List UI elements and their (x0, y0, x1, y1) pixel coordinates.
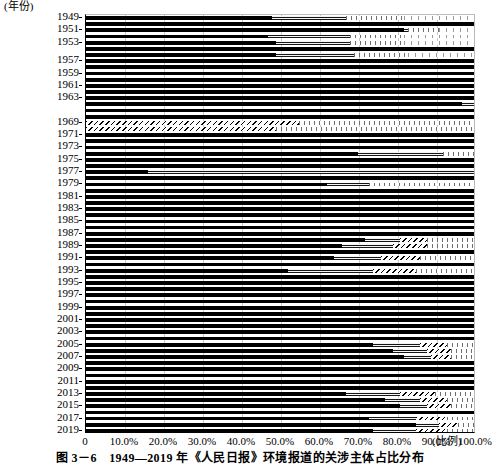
bar-segment-5 (404, 41, 474, 45)
bar-segment-2 (462, 102, 474, 106)
y-tick-label-1961: 1961 (57, 79, 79, 90)
bar-segment-2 (373, 429, 416, 433)
bar-segment-2 (276, 53, 354, 57)
bar-segment-1 (86, 164, 474, 168)
y-axis-labels: 1949195119531957195919611963196919711973… (0, 14, 82, 433)
bar-segment-2 (334, 256, 381, 260)
bar-segment-2 (404, 355, 431, 359)
y-tick-label-2007: 2007 (57, 350, 79, 361)
x-tick-label-60: 60.0% (305, 435, 333, 448)
y-tick-label-2017: 2017 (57, 412, 79, 423)
bar-segment-1 (86, 226, 474, 230)
bar-segment-1 (86, 312, 474, 316)
bar-segment-1 (86, 281, 474, 285)
bar-segment-1 (86, 220, 474, 224)
bar-segment-4 (427, 238, 474, 242)
y-tick-mark-1999 (79, 307, 82, 308)
bar-row (86, 330, 474, 334)
bar-segment-1 (86, 367, 474, 371)
bar-segment-1 (86, 404, 400, 408)
y-tick-label-1981: 1981 (57, 190, 79, 201)
bar-segment-1 (86, 22, 474, 26)
bar-segment-1 (86, 263, 474, 267)
bar-segment-1 (86, 287, 474, 291)
bar-segment-1 (86, 244, 342, 248)
bar-row (86, 35, 474, 39)
bar-segment-2 (327, 183, 370, 187)
bar-row (86, 374, 474, 378)
bar-row (86, 16, 474, 20)
y-tick-mark-2001 (79, 319, 82, 320)
y-tick-label-1971: 1971 (57, 128, 79, 139)
bar-row (86, 220, 474, 224)
bar-row (86, 53, 474, 57)
bar-segment-1 (86, 423, 416, 427)
y-tick-label-1969: 1969 (57, 116, 79, 127)
y-tick-mark-1983 (79, 208, 82, 209)
y-tick-label-1973: 1973 (57, 140, 79, 151)
y-tick-mark-1977 (79, 171, 82, 172)
x-tick-label-0: 0 (82, 435, 88, 448)
bar-row (86, 41, 474, 45)
y-tick-mark-1981 (79, 196, 82, 197)
bar-row (86, 139, 474, 143)
bar-segment-5 (439, 28, 474, 32)
y-tick-label-2009: 2009 (57, 362, 79, 373)
y-tick-label-2001: 2001 (57, 313, 79, 324)
y-tick-mark-1949 (79, 17, 82, 18)
x-tick-label-80: 80.0% (383, 435, 411, 448)
bar-segment-1 (86, 256, 334, 260)
bar-row (86, 133, 474, 137)
bar-segment-1 (86, 41, 276, 45)
bar-row (86, 256, 474, 260)
y-tick-mark-2011 (79, 381, 82, 382)
bar-segment-3 (393, 244, 428, 248)
figure-caption: 图 3－6 1949—2019 年《人民日报》环境报道的关涉主体占比分布 (0, 450, 480, 466)
bar-segment-1 (86, 250, 474, 254)
bar-segment-1 (86, 361, 474, 365)
bar-segment-3 (416, 429, 447, 433)
bar-segment-1 (86, 84, 474, 88)
bar-segment-4 (420, 256, 474, 260)
bar-segment-1 (86, 65, 474, 69)
bar-row (86, 423, 474, 427)
y-tick-mark-1993 (79, 270, 82, 271)
bar-segment-1 (86, 72, 474, 76)
bar-segment-1 (86, 238, 365, 242)
bar-segment-4 (346, 16, 404, 20)
bar-row (86, 146, 474, 150)
bar-segment-4 (299, 121, 474, 125)
bar-row (86, 361, 474, 365)
bar-segment-1 (86, 417, 369, 421)
x-tick-label-30: 30.0% (188, 435, 216, 448)
y-tick-mark-1985 (79, 220, 82, 221)
bar-segment-4 (447, 343, 474, 347)
y-tick-mark-2015 (79, 405, 82, 406)
bar-row (86, 232, 474, 236)
y-tick-mark-1987 (79, 233, 82, 234)
bar-row (86, 189, 474, 193)
bar-segment-1 (86, 213, 474, 217)
y-tick-label-2019: 2019 (57, 424, 79, 435)
y-tick-label-1997: 1997 (57, 288, 79, 299)
y-tick-mark-2003 (79, 331, 82, 332)
bar-row (86, 152, 474, 156)
bar-row (86, 300, 474, 304)
bar-segment-1 (86, 139, 474, 143)
bar-segment-3 (427, 349, 450, 353)
bar-segment-3 (400, 238, 427, 242)
y-tick-label-2003: 2003 (57, 325, 79, 336)
bar-segment-2 (148, 170, 474, 174)
bar-segment-1 (86, 380, 474, 384)
y-tick-mark-1979 (79, 183, 82, 184)
bar-row (86, 28, 474, 32)
bar-segment-1 (86, 293, 474, 297)
bar-segment-5 (404, 35, 474, 39)
y-tick-mark-1991 (79, 257, 82, 258)
bar-row (86, 59, 474, 63)
bar-row (86, 65, 474, 69)
bar-segment-1 (86, 300, 474, 304)
bar-segment-1 (86, 59, 474, 63)
bar-segment-1 (86, 152, 358, 156)
bar-segment-1 (86, 35, 268, 39)
